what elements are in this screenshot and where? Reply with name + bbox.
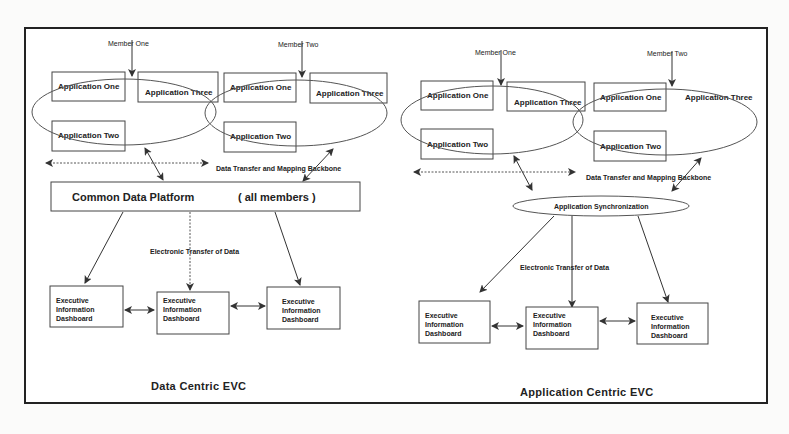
app-one-label: Application One xyxy=(427,91,489,100)
app-two-label-2: Application Two xyxy=(230,132,291,141)
dashboard-box: Executive Information Dashboard xyxy=(419,301,490,343)
app-three-box xyxy=(138,72,218,102)
svg-text:Executive: Executive xyxy=(533,312,566,319)
dashboard-box: Executive Information Dashboard xyxy=(157,292,229,334)
app-two-label: Application Two xyxy=(58,131,119,140)
transfer-label: Electronic Transfer of Data xyxy=(520,264,609,271)
backbone-label: Data Transfer and Mapping Backbone xyxy=(216,165,341,173)
dashboard-box: Executive Information Dashboard xyxy=(50,286,123,327)
dashboard-box: Executive Information Dashboard xyxy=(267,287,340,329)
svg-text:Information: Information xyxy=(282,307,321,314)
svg-text:Executive: Executive xyxy=(56,297,89,304)
member-one-label: Member One xyxy=(108,40,149,47)
svg-text:Executive: Executive xyxy=(163,297,196,304)
evc-comparison-diagram: Member One Member Two Application One Ap… xyxy=(0,0,789,434)
platform-note: ( all members ) xyxy=(238,191,316,203)
platform-label: Common Data Platform xyxy=(72,191,194,203)
app-three-label: Application Three xyxy=(514,98,582,107)
app-one-label-2: Application One xyxy=(600,93,662,102)
dashboard-box: Executive Information Dashboard xyxy=(637,303,708,344)
svg-text:Executive: Executive xyxy=(651,314,684,321)
svg-text:Information: Information xyxy=(651,323,690,330)
left-caption: Data Centric EVC xyxy=(151,380,246,392)
svg-text:Dashboard: Dashboard xyxy=(56,315,93,322)
sync-label: Application Synchronization xyxy=(554,203,649,211)
app-three-label-2: Application Three xyxy=(685,93,753,102)
member-one-label: Member One xyxy=(475,49,516,56)
svg-text:Dashboard: Dashboard xyxy=(651,332,688,339)
svg-text:Dashboard: Dashboard xyxy=(163,315,200,322)
backbone-label: Data Transfer and Mapping Backbone xyxy=(586,174,711,182)
svg-text:Information: Information xyxy=(56,306,95,313)
transfer-label: Electronic Transfer of Data xyxy=(150,248,239,255)
member-two-label: Member Two xyxy=(278,41,318,48)
app-two-label-2: Application Two xyxy=(600,142,661,151)
app-three-box-2 xyxy=(310,73,387,103)
svg-text:Executive: Executive xyxy=(282,298,315,305)
svg-text:Dashboard: Dashboard xyxy=(282,316,319,323)
app-two-label: Application Two xyxy=(427,140,488,149)
svg-text:Information: Information xyxy=(533,321,572,328)
svg-text:Information: Information xyxy=(163,306,202,313)
svg-text:Information: Information xyxy=(425,321,464,328)
right-caption: Application Centric EVC xyxy=(520,386,653,398)
member-two-label: Member Two xyxy=(647,50,687,57)
dashboard-box: Executive Information Dashboard xyxy=(526,307,598,349)
app-three-label-2: Application Three xyxy=(316,89,384,98)
svg-text:Executive: Executive xyxy=(425,312,458,319)
svg-text:Dashboard: Dashboard xyxy=(533,330,570,337)
app-three-label: Application Three xyxy=(145,88,213,97)
svg-text:Dashboard: Dashboard xyxy=(425,330,462,337)
